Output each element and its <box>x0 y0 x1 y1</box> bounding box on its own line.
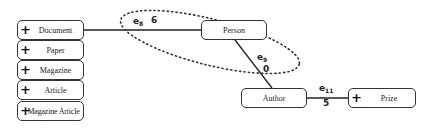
edge-subscript: 11 <box>325 87 333 94</box>
schema-diagram: + Document + Paper + Magazine + Article … <box>0 0 433 130</box>
edge-subscript: 9 <box>263 56 267 63</box>
plus-icon[interactable]: + <box>20 43 31 56</box>
node-article[interactable]: + Article <box>17 80 84 100</box>
edge-weight-e9: 0 <box>263 65 269 74</box>
node-label: Magazine <box>30 66 72 75</box>
plus-icon[interactable]: + <box>20 23 31 36</box>
node-label: Document <box>29 26 72 35</box>
highlight-ellipse <box>115 0 305 87</box>
node-person[interactable]: Person <box>201 20 267 40</box>
node-magazine-article[interactable]: + Magazine Article <box>17 101 84 121</box>
node-magazine[interactable]: + Magazine <box>17 60 84 80</box>
edge-label-e9: e9 <box>257 53 267 63</box>
node-document[interactable]: + Document <box>17 20 84 40</box>
edge-label-e8: e8 <box>133 17 143 27</box>
node-paper[interactable]: + Paper <box>17 40 84 60</box>
node-label: Article <box>34 86 66 95</box>
node-author[interactable]: Author <box>241 88 307 108</box>
plus-icon[interactable]: + <box>20 104 31 117</box>
node-label: Paper <box>36 46 64 55</box>
plus-icon[interactable]: + <box>20 83 31 96</box>
edge-weight-e8: 6 <box>151 16 157 25</box>
node-label: Prize <box>367 94 397 103</box>
node-label: Author <box>263 94 286 103</box>
node-prize[interactable]: + Prize <box>348 88 416 108</box>
edge-weight-e11: 5 <box>323 99 329 108</box>
edge-label-e11: e11 <box>319 84 333 94</box>
plus-icon[interactable]: + <box>20 63 31 76</box>
edge-subscript: 8 <box>139 20 143 27</box>
node-label: Person <box>223 26 245 35</box>
plus-icon[interactable]: + <box>351 91 362 104</box>
